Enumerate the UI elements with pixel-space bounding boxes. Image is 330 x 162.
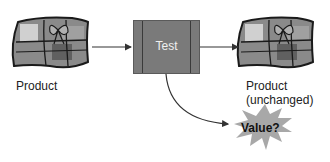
input-label: Product xyxy=(16,79,57,93)
output-label: Product xyxy=(246,79,287,93)
gift-box-icon xyxy=(13,18,88,68)
output-sublabel: (unchanged) xyxy=(246,93,313,107)
test-label: Test xyxy=(134,39,199,53)
test-process-box: Test xyxy=(133,20,200,74)
value-label: Value? xyxy=(241,121,280,135)
gift-box-icon xyxy=(238,18,313,68)
arrow-to-value xyxy=(166,74,228,124)
